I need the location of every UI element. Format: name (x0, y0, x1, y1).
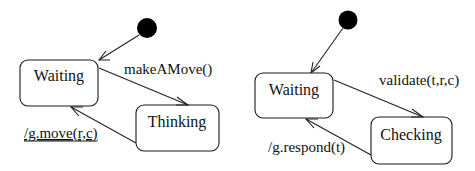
state-checking[interactable]: Checking (371, 117, 452, 164)
arrowhead-icon (71, 107, 83, 116)
player-state-machine: Waiting Thinking makeAMove() /g.move(r,c… (20, 18, 219, 151)
state-waiting-label: Waiting (269, 81, 319, 99)
arrowhead-icon (99, 51, 110, 60)
state-thinking-label: Thinking (148, 113, 207, 131)
state-waiting[interactable]: Waiting (20, 60, 98, 106)
transition-makeamove-label: makeAMove() (124, 61, 212, 78)
state-checking-label: Checking (380, 126, 441, 144)
initial-node-icon (137, 18, 157, 38)
transition-validate-label: validate(t,r,c) (379, 72, 459, 89)
state-waiting[interactable]: Waiting (255, 73, 333, 118)
arrowhead-icon (306, 119, 318, 128)
initial-transition-edge (311, 28, 343, 73)
referee-state-machine: Waiting Checking validate(t,r,c) /g.resp… (255, 11, 459, 165)
state-waiting-label: Waiting (34, 67, 84, 85)
initial-node-icon (339, 11, 358, 30)
initial-transition-edge (99, 35, 139, 60)
transition-grespond-label: /g.respond(t) (268, 139, 345, 156)
transition-gmove-label: /g.move(r,c) (24, 125, 98, 142)
state-thinking[interactable]: Thinking (136, 105, 219, 151)
state-diagrams-canvas: Waiting Thinking makeAMove() /g.move(r,c… (0, 0, 475, 171)
